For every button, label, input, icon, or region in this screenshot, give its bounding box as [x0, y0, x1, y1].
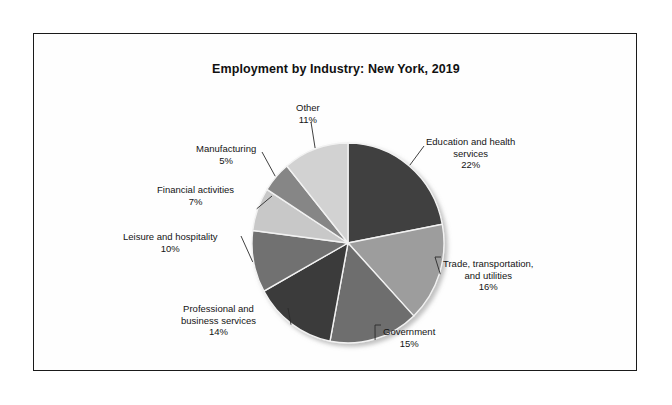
leader-line-manufacturing [262, 152, 275, 176]
leader-line-other [311, 122, 315, 148]
slice-pct: 11% [296, 114, 320, 126]
slice-label-line1: Other [296, 102, 320, 113]
slice-pct: 5% [196, 155, 256, 167]
slice-label-line1: Financial activities [157, 184, 234, 195]
slice-label-leisure-and-hospitality: Leisure and hospitality 10% [123, 231, 218, 254]
slice-label-financial-activities: Financial activities 7% [157, 184, 234, 207]
slice-label-line1: Trade, transportation, [443, 258, 533, 269]
pie-slices-group [252, 143, 444, 343]
slice-label-education-and-health-services: Education and health services 22% [426, 136, 515, 171]
slice-pct: 14% [181, 326, 256, 338]
slice-pct: 16% [443, 281, 533, 293]
slice-label-line1: Leisure and hospitality [123, 231, 218, 242]
slice-label-line2: services [453, 148, 488, 159]
slice-label-line1: Manufacturing [196, 143, 256, 154]
slice-pct: 22% [426, 159, 515, 171]
slice-label-line1: Professional and [183, 303, 254, 314]
pie-chart [0, 0, 672, 405]
slice-label-line2: and utilities [464, 270, 512, 281]
slice-label-manufacturing: Manufacturing 5% [196, 143, 256, 166]
slice-label-other: Other 11% [296, 102, 320, 125]
slice-label-line1: Government [383, 326, 435, 337]
slice-pct: 7% [157, 196, 234, 208]
leader-line-education-and-health-services [410, 146, 424, 165]
screenshot-root: Employment by Industry: New York, 2019 E… [0, 0, 672, 405]
slice-pct: 10% [123, 243, 218, 255]
slice-label-government: Government 15% [383, 326, 435, 349]
slice-label-line1: Education and health [426, 136, 515, 147]
slice-label-trade-transportation-and-utilities: Trade, transportation, and utilities 16% [443, 258, 533, 293]
slice-label-line2: business services [181, 315, 256, 326]
slice-pct: 15% [383, 338, 435, 350]
leader-line-leisure-and-hospitality [241, 236, 253, 262]
slice-label-professional-and-business-services: Professional and business services 14% [181, 303, 256, 338]
